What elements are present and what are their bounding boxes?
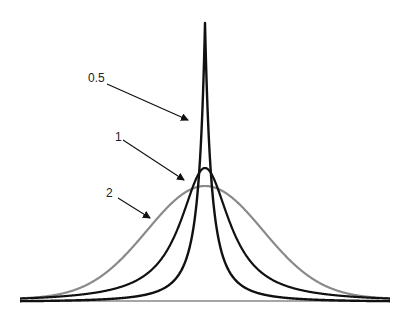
curve-1 (20, 168, 390, 299)
annotation-arrow-icon (118, 198, 150, 218)
annotation-label: 0.5 (88, 71, 105, 85)
annotations-group: 0.512 (88, 71, 188, 218)
annotation-label: 2 (106, 186, 113, 200)
annotation-label: 1 (115, 130, 122, 144)
annotation-arrow-icon (123, 140, 184, 180)
annotation-arrow-icon (107, 84, 188, 120)
distribution-chart: 0.512 (0, 0, 413, 322)
curves-group (20, 23, 390, 301)
curve-2 (20, 186, 390, 298)
curve-0-5 (20, 23, 390, 301)
